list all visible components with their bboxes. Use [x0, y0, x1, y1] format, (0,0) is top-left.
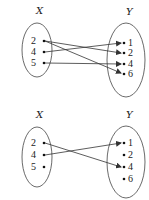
x-element: 5 [31, 161, 36, 172]
mapping-arrow-4-to-1 [45, 143, 121, 155]
diagram-top: X Y 2 4 5 1 2 4 6 [22, 5, 145, 97]
y-dot [123, 42, 126, 45]
mapping-diagrams: X Y 2 4 5 1 2 4 6 X Y 2 4 5 [0, 0, 149, 200]
x-dot [43, 62, 46, 65]
y-dot [123, 63, 126, 66]
set-x-label: X [35, 5, 44, 16]
y-dot [123, 52, 126, 55]
x-dot [43, 142, 46, 145]
mapping-arrow-4-to-1 [45, 43, 121, 52]
y-element: 6 [128, 68, 133, 79]
x-element: 4 [31, 149, 36, 160]
set-y-label: Y [126, 109, 134, 120]
set-y-ellipse [107, 126, 145, 198]
set-x-ellipse [22, 127, 52, 187]
x-dot [43, 166, 46, 169]
y-dot [123, 178, 126, 181]
x-dot [43, 51, 46, 54]
y-element: 6 [128, 173, 133, 184]
y-element: 2 [128, 149, 133, 160]
x-dot [43, 154, 46, 157]
x-dot [43, 40, 46, 43]
y-dot [123, 166, 126, 169]
mapping-arrow-2-to-4 [45, 143, 121, 167]
x-element: 2 [31, 137, 36, 148]
set-x-label: X [35, 109, 44, 120]
y-element: 2 [128, 47, 133, 58]
mapping-arrow-2-to-2 [45, 41, 121, 53]
set-y-ellipse [107, 23, 145, 97]
set-y-label: Y [126, 6, 134, 17]
y-dot [123, 154, 126, 157]
mapping-arrow-5-to-4 [45, 63, 121, 64]
x-element: 5 [31, 57, 36, 68]
y-dot [123, 73, 126, 76]
y-dot [123, 142, 126, 145]
mapping-arrow-2-to-6 [45, 41, 121, 73]
set-x-ellipse [22, 23, 52, 77]
y-element: 4 [128, 161, 133, 172]
x-element: 2 [31, 35, 36, 46]
y-element: 1 [128, 137, 133, 148]
diagram-bottom: X Y 2 4 5 1 2 4 6 [22, 109, 145, 198]
x-element: 4 [31, 46, 36, 57]
